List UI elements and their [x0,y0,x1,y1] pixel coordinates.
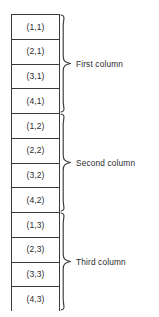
array-cell: (4,2) [12,188,59,213]
array-cell-label: (4,2) [27,196,45,205]
array-cell-label: (2,1) [27,47,45,56]
array-cell-label: (2,3) [27,245,45,254]
array-cell-label: (2,2) [27,146,45,155]
array-column-diagram: (1,1) (2,1) (3,1) (4,1) (1,2) (2,2) (3,2… [0,0,159,317]
array-cell: (2,3) [12,238,59,263]
group-label-third-column: Third column [76,257,126,267]
array-cell-stack: (1,1) (2,1) (3,1) (4,1) (1,2) (2,2) (3,2… [11,14,60,311]
group-brace-icon [60,14,73,113]
group-label-second-column: Second column [76,158,135,168]
array-cell: (1,2) [12,114,59,139]
array-cell-label: (1,2) [27,122,45,131]
array-cell: (1,1) [12,15,59,40]
group-brace-icon [60,113,73,212]
array-cell-label: (1,3) [27,221,45,230]
array-cell-label: (3,2) [27,171,45,180]
array-cell: (4,1) [12,89,59,114]
array-cell-label: (3,3) [27,270,45,279]
group-label-first-column: First column [76,59,123,69]
array-cell: (3,1) [12,65,59,90]
array-cell-label: (4,3) [27,295,45,304]
array-cell-label: (4,1) [27,97,45,106]
group-brace-icon [60,212,73,311]
array-cell: (1,3) [12,213,59,238]
array-cell: (4,3) [12,287,59,312]
array-cell: (3,2) [12,164,59,189]
array-cell: (2,2) [12,139,59,164]
array-cell: (2,1) [12,40,59,65]
array-cell: (3,3) [12,263,59,288]
array-cell-label: (3,1) [27,72,45,81]
array-cell-label: (1,1) [27,23,45,32]
